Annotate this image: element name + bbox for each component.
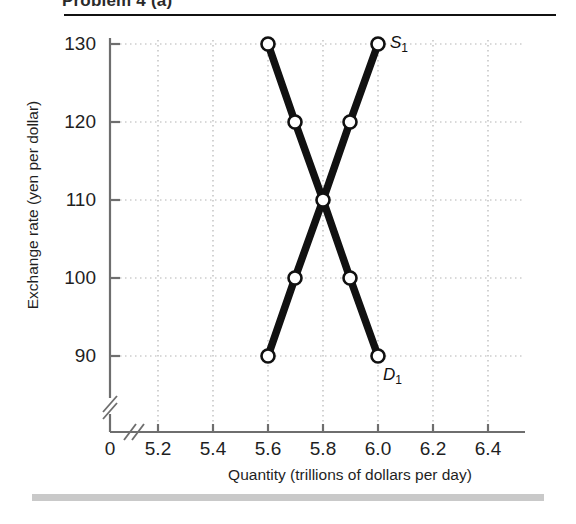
x-axis-title: Quantity (trillions of dollars per day) [150,466,550,484]
axis-lines [110,38,525,432]
supply-point [262,350,275,363]
x-tick-label-5-4: 5.4 [190,438,236,460]
demand-point [344,272,357,285]
supply-point [344,116,357,129]
footer-band [32,494,544,501]
supply-point [372,38,385,51]
x-tick-label-5-2: 5.2 [135,438,181,460]
demand-curve-label-sub: 1 [395,373,402,387]
supply-curve-label: S1 [390,33,408,55]
y-tick-label-130: 130 [50,33,96,55]
x-tick-label-6-0: 6.0 [355,438,401,460]
y-tick-label-120: 120 [50,111,96,133]
demand-point [289,116,302,129]
equilibrium-point [317,194,330,207]
y-tick-label-100: 100 [50,267,96,289]
y-tick-label-90: 90 [50,345,96,367]
vertical-gridlines [158,40,488,432]
chart-page: Problem 4 (a) [0,0,576,524]
x-tick-label-6-2: 6.2 [410,438,456,460]
demand-curve-label-text: D [383,365,395,384]
x-tick-label-6-4: 6.4 [465,438,511,460]
x-tick-label-5-8: 5.8 [300,438,346,460]
x-tick-label-5-6: 5.6 [245,438,291,460]
supply-point [289,272,302,285]
supply-curve-label-text: S [390,33,401,52]
y-tick-marks [110,44,120,356]
y-tick-label-110: 110 [50,189,96,211]
demand-point [262,38,275,51]
x-tick-marks [158,424,488,432]
y-axis-title: Exchange rate (yen per dollar) [24,30,42,380]
x-tick-label-0: 0 [87,438,133,460]
supply-curve-label-sub: 1 [401,41,408,55]
demand-point [372,350,385,363]
exchange-rate-chart: Exchange rate (yen per dollar) 130 120 1… [0,0,576,524]
demand-curve-label: D1 [383,365,402,387]
